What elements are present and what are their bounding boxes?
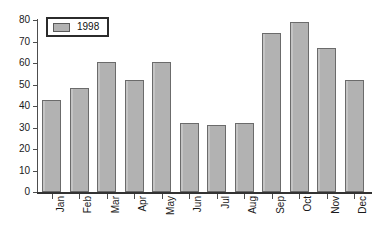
bar <box>152 62 171 192</box>
x-axis-tick-label: Nov <box>331 196 341 214</box>
y-axis-tick-label: 60 <box>19 58 30 68</box>
y-axis-tick-label: 40 <box>19 101 30 111</box>
bar-chart: 01020304050607080 JanFebMarAprMayJunJulA… <box>0 0 378 232</box>
legend-swatch-1998 <box>53 23 70 32</box>
bar <box>180 123 199 192</box>
bar <box>317 48 336 192</box>
x-axis-tick-label: Dec <box>358 196 368 214</box>
bar <box>345 80 364 192</box>
legend-label-1998: 1998 <box>77 22 99 32</box>
x-axis-tick-label: Oct <box>303 196 313 212</box>
x-axis-tick-label: Apr <box>138 196 148 212</box>
bars-container <box>38 20 368 192</box>
y-axis-tick-label: 10 <box>19 166 30 176</box>
x-axis-tick-label: May <box>166 196 176 215</box>
bar <box>70 88 89 192</box>
y-axis: 01020304050607080 <box>0 0 38 232</box>
bar <box>290 22 309 192</box>
x-axis-tick-label: Jul <box>221 196 231 209</box>
y-axis-tick-label: 0 <box>24 187 30 197</box>
x-axis-line <box>37 192 372 194</box>
x-axis-labels: JanFebMarAprMayJunJulAugSepOctNovDec <box>38 196 368 232</box>
y-axis-tick-label: 20 <box>19 144 30 154</box>
x-axis-tick-label: Jan <box>56 196 66 212</box>
x-axis-tick-label: Jun <box>193 196 203 212</box>
bar <box>262 33 281 192</box>
y-axis-tick-label: 70 <box>19 37 30 47</box>
x-axis-tick-label: Sep <box>276 196 286 214</box>
bar <box>207 125 226 192</box>
y-axis-tick-label: 80 <box>19 15 30 25</box>
x-axis-tick-label: Feb <box>83 196 93 213</box>
y-axis-tick-label: 30 <box>19 123 30 133</box>
bar <box>125 80 144 192</box>
bar <box>235 123 254 192</box>
y-axis-tick-label: 50 <box>19 80 30 90</box>
bar <box>97 62 116 192</box>
x-axis-tick-label: Aug <box>248 196 258 214</box>
chart-legend: 1998 <box>46 17 109 37</box>
x-axis-tick-label: Mar <box>111 196 121 213</box>
bar <box>42 100 61 192</box>
